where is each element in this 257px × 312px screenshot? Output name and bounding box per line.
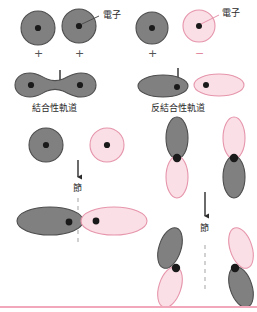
panel-bonding-s xyxy=(15,9,99,97)
p-lobe-gray xyxy=(223,156,245,198)
bottom-rule xyxy=(0,306,257,308)
label-node-p: 節 xyxy=(200,224,209,233)
electron-dot xyxy=(203,82,209,88)
sign-minus-right-1: − xyxy=(195,48,204,59)
atomic-orbital-s-gray-3 xyxy=(136,12,168,44)
atomic-orbital-s-pink-2 xyxy=(90,128,124,162)
label-electron-right: 電子 xyxy=(222,9,240,18)
atomic-orbital-s-gray-1 xyxy=(21,11,55,45)
label-electron-left: 電子 xyxy=(103,11,121,20)
sign-plus-left-2: + xyxy=(75,48,84,59)
panel-antibonding-s-detail xyxy=(17,128,147,243)
p-lobe-pink xyxy=(223,117,245,159)
p-lobe-gray xyxy=(153,225,187,272)
caption-bonding-orbital: 結合性軌道 xyxy=(32,104,77,113)
node-p-orbital-right xyxy=(224,225,257,311)
p-lobe-pink xyxy=(166,156,188,198)
p-lobe-pink xyxy=(224,225,257,272)
atomic-orbital-p-1 xyxy=(166,117,188,198)
electron-dot xyxy=(43,142,49,148)
electron-dot xyxy=(77,82,83,88)
electron-dot xyxy=(35,25,41,31)
electron-dot xyxy=(104,142,110,148)
electron-dot xyxy=(173,154,181,162)
sign-plus-right-1: + xyxy=(148,48,157,59)
electron-dot xyxy=(93,218,100,225)
panel-antibonding-p xyxy=(153,117,257,310)
atomic-orbital-s-pink-1 xyxy=(183,10,215,42)
sign-plus-left-1: + xyxy=(34,48,43,59)
antibonding-orbital-right-lobe xyxy=(194,74,244,96)
atomic-orbital-s-gray-2 xyxy=(62,9,96,43)
electron-dot xyxy=(66,219,73,226)
p-lobe-pink xyxy=(153,264,187,311)
electron-dot xyxy=(174,84,180,90)
electron-dot xyxy=(149,25,155,31)
bonding-orbital-shape xyxy=(15,73,96,97)
antibonding-orbital-left-lobe xyxy=(138,75,188,97)
caption-antibonding-orbital: 反結合性軌道 xyxy=(151,104,205,113)
node-orbital-left-lobe xyxy=(17,207,83,235)
atomic-orbital-s-gray-4 xyxy=(29,128,63,162)
node-p-orbital-left xyxy=(153,225,187,311)
atomic-orbital-p-2 xyxy=(223,117,245,198)
electron-dot xyxy=(230,154,238,162)
p-lobe-gray xyxy=(224,264,257,311)
electron-dot xyxy=(172,264,180,272)
p-lobe-gray xyxy=(166,117,188,159)
node-orbital-right-lobe xyxy=(81,207,147,235)
electron-dot xyxy=(231,264,239,272)
electron-dot xyxy=(76,23,82,29)
electron-dot xyxy=(28,82,34,88)
label-node-s: 節 xyxy=(73,184,82,193)
